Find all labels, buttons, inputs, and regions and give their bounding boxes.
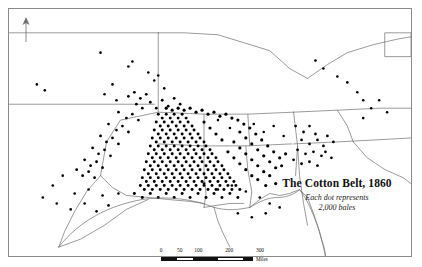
legend-note-line-1: Each dot represents: [273, 193, 401, 203]
scale-bar-graphic: [161, 257, 253, 262]
scale-tick-300: 300: [256, 247, 264, 253]
scale-units-label: Miles: [256, 256, 268, 262]
cotton-belt-map-figure: The Cotton Belt, 1860 Each dot represent…: [0, 0, 422, 267]
scale-tick-50: 50: [177, 247, 182, 253]
scale-bar-row: Miles: [161, 256, 271, 262]
legend-note-line-2: 2,000 bales: [273, 203, 401, 213]
map-canvas: [9, 9, 411, 256]
title-block: The Cotton Belt, 1860 Each dot represent…: [273, 177, 401, 213]
scale-tick-labels: 0 50 100 200 300: [161, 247, 271, 256]
map-title: The Cotton Belt, 1860: [273, 177, 401, 189]
state-boundaries: [9, 33, 411, 256]
scale-tick-0: 0: [160, 247, 163, 253]
scale-tick-100: 100: [194, 247, 202, 253]
scale-bar: 0 50 100 200 300 Miles: [161, 247, 271, 262]
map-legend-note: Each dot represents 2,000 bales: [273, 193, 401, 213]
map-svg: [9, 9, 411, 256]
map-frame: The Cotton Belt, 1860 Each dot represent…: [8, 8, 412, 257]
north-arrow-svg: [19, 17, 33, 43]
scale-tick-200: 200: [225, 247, 233, 253]
dots-high-density-delta: [133, 113, 241, 199]
north-arrow-icon: [19, 17, 33, 43]
